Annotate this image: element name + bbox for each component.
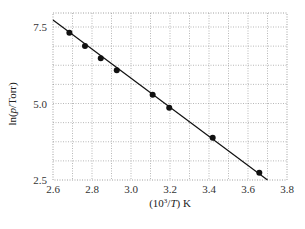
x-axis-ticks: 2.62.83.03.23.43.63.8: [46, 183, 294, 195]
chart: 2.62.83.03.23.43.63.8 2.55.07.5 (103/T) …: [0, 0, 305, 229]
data-point: [114, 67, 120, 73]
data-point: [150, 92, 156, 98]
y-tick-label: 5.0: [33, 98, 47, 110]
data-point: [166, 105, 172, 111]
grid: [53, 13, 287, 180]
x-tick-label: 2.8: [85, 183, 99, 195]
x-tick-label: 3.2: [163, 183, 177, 195]
x-tick-label: 3.8: [280, 183, 294, 195]
y-axis-ticks: 2.55.07.5: [33, 21, 47, 186]
y-axis-label: ln(p/Torr): [6, 82, 19, 126]
data-point: [210, 135, 216, 141]
y-tick-label: 7.5: [33, 21, 47, 33]
x-tick-label: 3.0: [124, 183, 138, 195]
data-point: [98, 55, 104, 61]
x-axis-label: (103/T) K: [149, 197, 191, 210]
data-point: [66, 30, 72, 36]
y-tick-label: 2.5: [33, 174, 47, 186]
data-point: [82, 43, 88, 49]
data-point: [256, 170, 262, 176]
x-tick-label: 3.6: [241, 183, 255, 195]
x-tick-label: 2.6: [46, 183, 60, 195]
x-tick-label: 3.4: [202, 183, 216, 195]
